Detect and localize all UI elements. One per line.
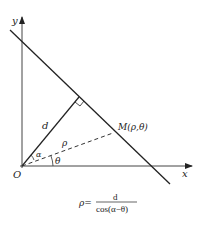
x-axis-label: x xyxy=(182,168,188,179)
formula-lhs: ρ= xyxy=(78,198,92,208)
formula-denominator: cos(α−θ) xyxy=(96,204,128,214)
label-theta: θ xyxy=(55,156,61,166)
line-l xyxy=(10,30,170,184)
diagram-canvas: y x O d ρ α θ M(ρ,θ) ρ= d cos(α−θ) xyxy=(0,0,199,226)
formula-numerator: d xyxy=(113,192,118,202)
label-rho: ρ xyxy=(61,138,68,148)
origin-label: O xyxy=(13,169,21,180)
label-point-m: M(ρ,θ) xyxy=(117,122,148,132)
arc-theta xyxy=(51,156,53,166)
label-d: d xyxy=(42,120,48,131)
y-axis-label: y xyxy=(11,15,18,26)
right-angle-marker xyxy=(75,101,84,106)
label-alpha: α xyxy=(36,150,42,159)
arc-alpha xyxy=(31,155,34,160)
